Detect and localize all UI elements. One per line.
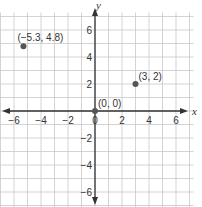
x-tick-label: 4 xyxy=(146,115,152,126)
point-label: (−5.3, 4.8) xyxy=(17,32,63,43)
y-tick-label: 4 xyxy=(86,52,92,63)
y-tick-label: −6 xyxy=(81,187,93,198)
x-axis-right-arrow-icon xyxy=(180,108,188,114)
y-tick-label: −4 xyxy=(81,160,93,171)
coordinate-plane: xy −6−4−20246642−2−4−6 (−5.3, 4.8)(3, 2)… xyxy=(0,0,202,207)
x-tick-label: 0 xyxy=(92,115,98,126)
data-points: (−5.3, 4.8)(3, 2)(0, 0) xyxy=(17,32,161,114)
point-label: (0, 0) xyxy=(98,98,121,109)
y-tick-label: 6 xyxy=(86,25,92,36)
x-tick-label: −2 xyxy=(62,115,74,126)
point-label: (3, 2) xyxy=(139,71,162,82)
y-tick-label: −2 xyxy=(81,133,93,144)
y-axis-label: y xyxy=(95,0,101,11)
x-tick-label: 6 xyxy=(173,115,179,126)
data-point xyxy=(20,43,26,49)
x-axis-left-arrow-icon xyxy=(2,108,10,114)
x-axis-label: x xyxy=(191,105,197,117)
y-tick-label: 2 xyxy=(86,79,92,90)
x-tick-label: −4 xyxy=(35,115,47,126)
x-tick-label: 2 xyxy=(119,115,125,126)
y-axis-down-arrow-icon xyxy=(92,197,98,205)
x-tick-label: −6 xyxy=(8,115,20,126)
